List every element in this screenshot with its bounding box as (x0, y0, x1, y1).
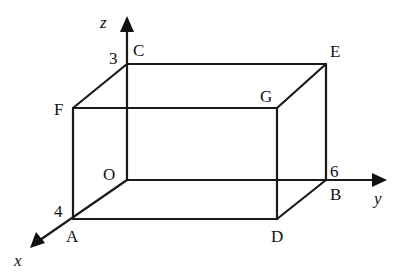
vertex-E-label: E (330, 43, 340, 60)
y-axis-label: y (374, 190, 382, 207)
z-arrow-icon (120, 16, 134, 32)
vertex-C-label: C (133, 42, 144, 59)
edge-CF (73, 64, 127, 108)
vertex-G-label: G (260, 88, 272, 105)
x-arrow-icon (30, 232, 45, 248)
edge-EG (277, 64, 326, 108)
x-extent-label: 4 (54, 203, 63, 220)
y-arrow-icon (372, 173, 387, 187)
vertex-D-label: D (271, 228, 283, 245)
vertex-A-label: A (66, 228, 78, 245)
z-extent-label: 3 (109, 50, 118, 67)
vertex-O-label: O (103, 166, 115, 183)
y-extent-label: 6 (330, 163, 339, 180)
box-diagram: z y x 3 6 4 C E F G O B A D (0, 0, 395, 277)
x-axis-label: x (14, 252, 22, 269)
edge-DB (277, 180, 326, 219)
vertex-B-label: B (330, 186, 341, 203)
vertex-F-label: F (54, 101, 63, 118)
z-axis-label: z (100, 14, 107, 31)
